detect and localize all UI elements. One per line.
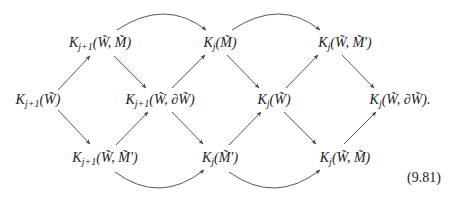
diagram-node-n3: Kj+1(W̃, M̃′)	[72, 150, 137, 166]
diagram-node-n4: Kj+1(W̃, ∂W̃)	[125, 92, 194, 108]
node-symbol: K	[257, 92, 266, 107]
node-symbol: K	[320, 150, 329, 165]
arrow-n1-n3	[58, 110, 90, 144]
arc-n2-n5	[117, 14, 206, 30]
node-symbol: K	[202, 150, 211, 165]
node-subscript: j+1	[25, 98, 40, 109]
node-arguments: (W̃, M̃′)	[330, 35, 371, 50]
node-symbol: K	[370, 92, 379, 107]
diagram-node-n6: Kj(M̃′)	[202, 150, 238, 166]
node-arguments: (W̃, ∂W̃).	[382, 92, 431, 107]
arrow-n1-n2	[58, 56, 90, 90]
arrow-n5-n7	[227, 55, 259, 88]
arrow-n9-n10	[344, 112, 376, 144]
node-arguments: (W̃, ∂W̃)	[149, 92, 194, 107]
node-symbol: K	[203, 35, 212, 50]
node-arguments: (W̃, M̃′)	[96, 150, 137, 165]
node-subscript: j+1	[82, 156, 97, 167]
node-symbol: K	[69, 35, 78, 50]
arrow-n8-n10	[342, 55, 374, 88]
node-subscript: j+1	[135, 98, 150, 109]
arrow-n6-n7	[229, 112, 261, 145]
node-arguments: (W̃)	[39, 92, 60, 107]
arc-n5-n8	[232, 14, 320, 30]
diagram-node-n9: Kj(W̃, M̃)	[320, 150, 371, 166]
node-arguments: (W̃, M̃)	[332, 150, 370, 165]
arrow-n4-n5	[172, 55, 205, 88]
arrow-n3-n4	[116, 112, 148, 145]
arrow-n7-n9	[284, 112, 316, 144]
diagram-node-n10: Kj(W̃, ∂W̃).	[370, 92, 431, 108]
node-symbol: K	[125, 92, 134, 107]
arc-n3-n6	[115, 170, 204, 188]
node-arguments: (W̃, M̃)	[93, 35, 131, 50]
node-arguments: (W̃)	[270, 92, 291, 107]
arc-n6-n9	[229, 170, 320, 188]
node-arguments: (M̃′)	[214, 150, 238, 165]
diagram-node-n8: Kj(W̃, M̃′)	[318, 35, 372, 51]
diagram-node-n5: Kj(M̃)	[203, 35, 236, 51]
arrow-n2-n4	[114, 56, 146, 88]
arrow-n4-n6	[172, 112, 203, 144]
equation-number: (9.81)	[407, 170, 441, 186]
node-symbol: K	[16, 92, 25, 107]
node-symbol: K	[72, 150, 81, 165]
diagram-node-n7: Kj(W̃)	[257, 92, 290, 108]
diagram-node-n1: Kj+1(W̃)	[16, 92, 61, 108]
node-subscript: j+1	[78, 41, 93, 52]
diagram-node-n2: Kj+1(W̃, M̃)	[69, 35, 131, 51]
node-arguments: (M̃)	[216, 35, 237, 50]
arrow-n7-n8	[286, 55, 318, 88]
node-symbol: K	[318, 35, 327, 50]
